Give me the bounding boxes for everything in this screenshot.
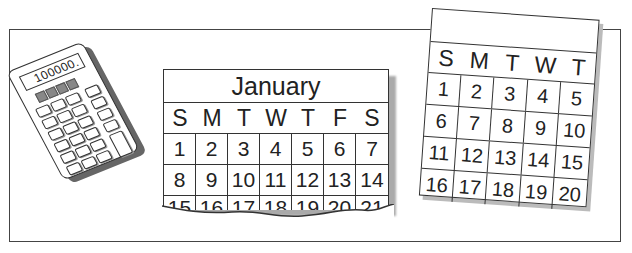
day-cell: 10 [557, 114, 592, 147]
day-cell: 3 [228, 134, 260, 164]
weekday-label: T [228, 103, 260, 133]
day-cell: 12 [455, 139, 490, 172]
month-title: January [164, 70, 388, 103]
day-cell: 8 [164, 165, 196, 195]
day-cell: 17 [453, 171, 488, 204]
day-cell: 2 [196, 134, 228, 164]
day-cell: 18 [486, 173, 521, 206]
tilted-calendar: S M T W T 1 2 3 4 5 6 7 8 9 10 11 12 13 … [419, 8, 600, 207]
january-calendar: January S M T W T F S 1 2 3 4 5 6 7 8 9 … [163, 69, 389, 210]
day-cell: 7 [356, 134, 388, 164]
day-cell: 4 [260, 134, 292, 164]
day-cell: 14 [521, 144, 556, 177]
weekday-label: W [528, 49, 563, 81]
day-cell: 3 [493, 78, 528, 111]
torn-edge-icon [162, 204, 394, 222]
day-cell: 9 [523, 112, 558, 145]
day-cell: 14 [356, 165, 388, 195]
day-cell: 8 [490, 109, 525, 142]
weekday-label: M [196, 103, 228, 133]
day-cell: 10 [228, 165, 260, 195]
day-cell: 7 [457, 107, 492, 140]
calculator-key [80, 156, 98, 170]
week-row: 8 9 10 11 12 13 14 [164, 165, 388, 196]
day-cell: 13 [324, 165, 356, 195]
calendar-page: S M T W T 1 2 3 4 5 6 7 8 9 10 11 12 13 … [419, 8, 600, 207]
calculator-key [66, 162, 84, 176]
day-cell: 5 [292, 134, 324, 164]
week-row: 1 2 3 4 5 6 7 [164, 134, 388, 165]
day-cell: 6 [324, 134, 356, 164]
weekday-label: F [324, 103, 356, 133]
day-cell: 9 [196, 165, 228, 195]
weekday-label: T [292, 103, 324, 133]
weekday-label: S [429, 42, 464, 74]
weekday-label: S [164, 103, 196, 133]
day-cell: 16 [420, 169, 455, 202]
day-cell: 12 [292, 165, 324, 195]
day-cell: 1 [426, 73, 461, 106]
day-cell: 19 [519, 176, 554, 209]
calculator-equals-key [109, 130, 134, 157]
day-cell: 2 [459, 75, 494, 108]
weekday-label: T [561, 51, 596, 83]
weekday-label: S [356, 103, 388, 133]
day-cell: 15 [554, 146, 589, 179]
day-cell: 11 [260, 165, 292, 195]
weekday-label: M [462, 44, 497, 76]
weekday-label: T [495, 47, 530, 79]
day-cell: 5 [559, 82, 594, 115]
day-cell: 13 [488, 141, 523, 174]
weekday-header: S M T W T F S [164, 103, 388, 134]
day-cell: 20 [552, 178, 587, 211]
day-cell: 6 [424, 105, 459, 138]
calculator-key [95, 150, 113, 164]
day-cell: 4 [526, 80, 561, 113]
day-cell: 1 [164, 134, 196, 164]
weekday-label: W [260, 103, 292, 133]
calendar-page: January S M T W T F S 1 2 3 4 5 6 7 8 9 … [163, 69, 389, 210]
day-cell: 11 [422, 137, 457, 170]
